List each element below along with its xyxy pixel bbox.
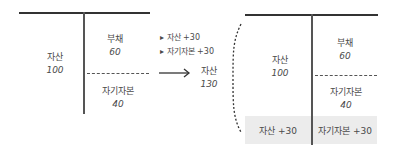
right-assets-label: 자산	[255, 53, 305, 66]
left-liabilities-value: 60	[90, 47, 140, 57]
change-item-equity: ▸ 자기자본 +30	[160, 45, 214, 56]
left-liability-equity-separator	[87, 73, 149, 74]
left-assets-label: 자산	[30, 50, 80, 63]
left-liabilities-label: 부채	[90, 32, 140, 45]
brace-bracket	[225, 22, 245, 134]
right-liabilities-label: 부채	[320, 36, 370, 49]
added-equity-text: 자기자본 +30	[313, 124, 377, 137]
total-assets-value: 130	[196, 79, 222, 89]
added-assets-text: 자산 +30	[245, 124, 311, 137]
left-equity-label: 자기자본	[88, 84, 148, 97]
left-equity-value: 40	[88, 99, 148, 109]
left-assets-value: 100	[30, 65, 80, 75]
left-t-account-divider	[83, 12, 85, 114]
right-liability-equity-separator	[315, 75, 377, 76]
right-equity-label: 자기자본	[315, 85, 377, 98]
change-item-assets: ▸ 자산 +30	[160, 31, 200, 42]
right-arrow-icon	[158, 67, 192, 79]
total-assets-label: 자산	[196, 64, 222, 77]
right-equity-value: 40	[315, 100, 377, 110]
right-assets-value: 100	[255, 68, 305, 78]
right-liabilities-value: 60	[320, 51, 370, 61]
